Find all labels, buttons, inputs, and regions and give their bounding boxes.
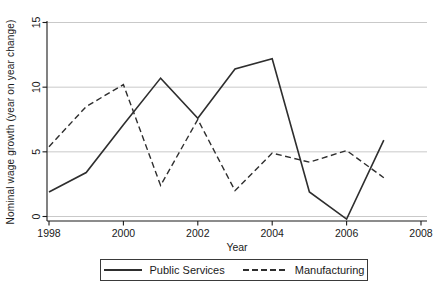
plot-area: 051015199820002002200420062008 <box>0 0 443 291</box>
y-tick-label-10: 10 <box>30 81 42 93</box>
x-tick-label-2004: 2004 <box>261 227 285 239</box>
y-tick-label-15: 15 <box>30 17 42 29</box>
y-axis-label: Nominal wage growth (year on year change… <box>5 20 16 225</box>
x-tick-label-2002: 2002 <box>186 227 210 239</box>
x-tick-label-1998: 1998 <box>37 227 61 239</box>
legend-solid-line-sample <box>104 269 142 271</box>
x-axis-label: Year <box>226 241 247 253</box>
x-tick-label-2008: 2008 <box>409 227 433 239</box>
y-tick-label-0: 0 <box>30 213 42 219</box>
series-line-public-services <box>49 59 384 219</box>
legend: Public Services Manufacturing <box>100 259 368 281</box>
x-tick-label-2000: 2000 <box>112 227 136 239</box>
y-tick-label-5: 5 <box>30 149 42 155</box>
wage-growth-line-chart: 051015199820002002200420062008 Nominal w… <box>0 0 443 291</box>
series-line-manufacturing <box>49 85 384 191</box>
x-tick-label-2006: 2006 <box>335 227 359 239</box>
legend-label-manufacturing: Manufacturing <box>295 264 365 276</box>
legend-dashed-line-sample <box>243 269 287 271</box>
legend-label-public-services: Public Services <box>150 264 225 276</box>
